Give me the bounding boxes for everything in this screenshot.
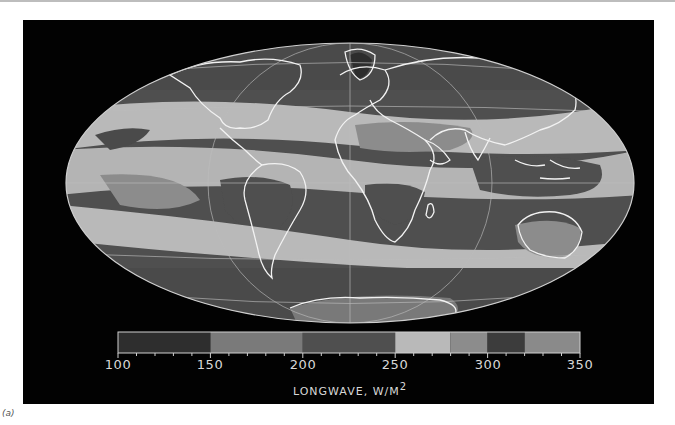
colorbar-tick-label: 350	[567, 357, 593, 372]
colorbar-title-superscript: 2	[400, 381, 407, 392]
colorbar-tick-label: 200	[290, 357, 316, 372]
colorbar-tick-label: 150	[197, 357, 223, 372]
colorbar	[118, 332, 580, 358]
colorbar-tick-label: 250	[382, 357, 408, 372]
olr-field	[60, 40, 640, 330]
colorbar-tick-label: 300	[475, 357, 501, 372]
colorbar-tick-label: 100	[105, 357, 131, 372]
colorbar-title: LONGWAVE, W/M2	[293, 381, 407, 398]
colorbar-title-text: LONGWAVE, W/M	[293, 385, 400, 398]
figure-caption: (a)	[2, 408, 15, 418]
